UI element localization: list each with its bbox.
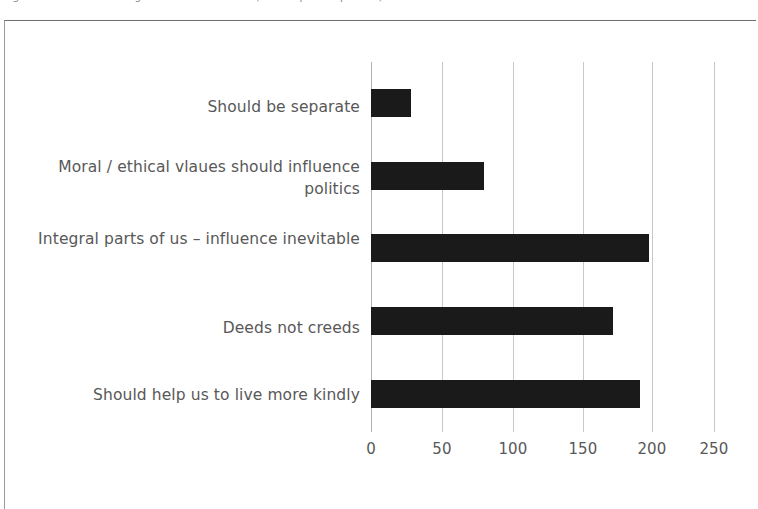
category-label-1: Moral / ethical vlaues should influence … [30,156,360,200]
xtick-label-50: 50 [412,440,472,458]
gridline-250 [714,62,715,432]
xtick-label-250: 250 [684,440,744,458]
bar-chart: Should be separate Moral / ethical vlaue… [0,0,758,509]
xtick-label-200: 200 [622,440,682,458]
bar-should-help-us-live-kindly [371,380,640,408]
xtick-label-150: 150 [553,440,613,458]
bar-moral-ethical-values [371,162,484,190]
gridline-200 [652,62,653,432]
xtick-label-0: 0 [341,440,401,458]
category-label-0: Should be separate [30,96,360,118]
bar-integral-parts-of-us [371,234,649,262]
category-label-3: Deeds not creeds [30,317,360,339]
category-label-4: Should help us to live more kindly [30,384,360,406]
xtick-label-100: 100 [483,440,543,458]
category-label-2: Integral parts of us – influence inevita… [30,228,360,250]
bar-deeds-not-creeds [371,307,613,335]
bar-should-be-separate [371,89,411,117]
